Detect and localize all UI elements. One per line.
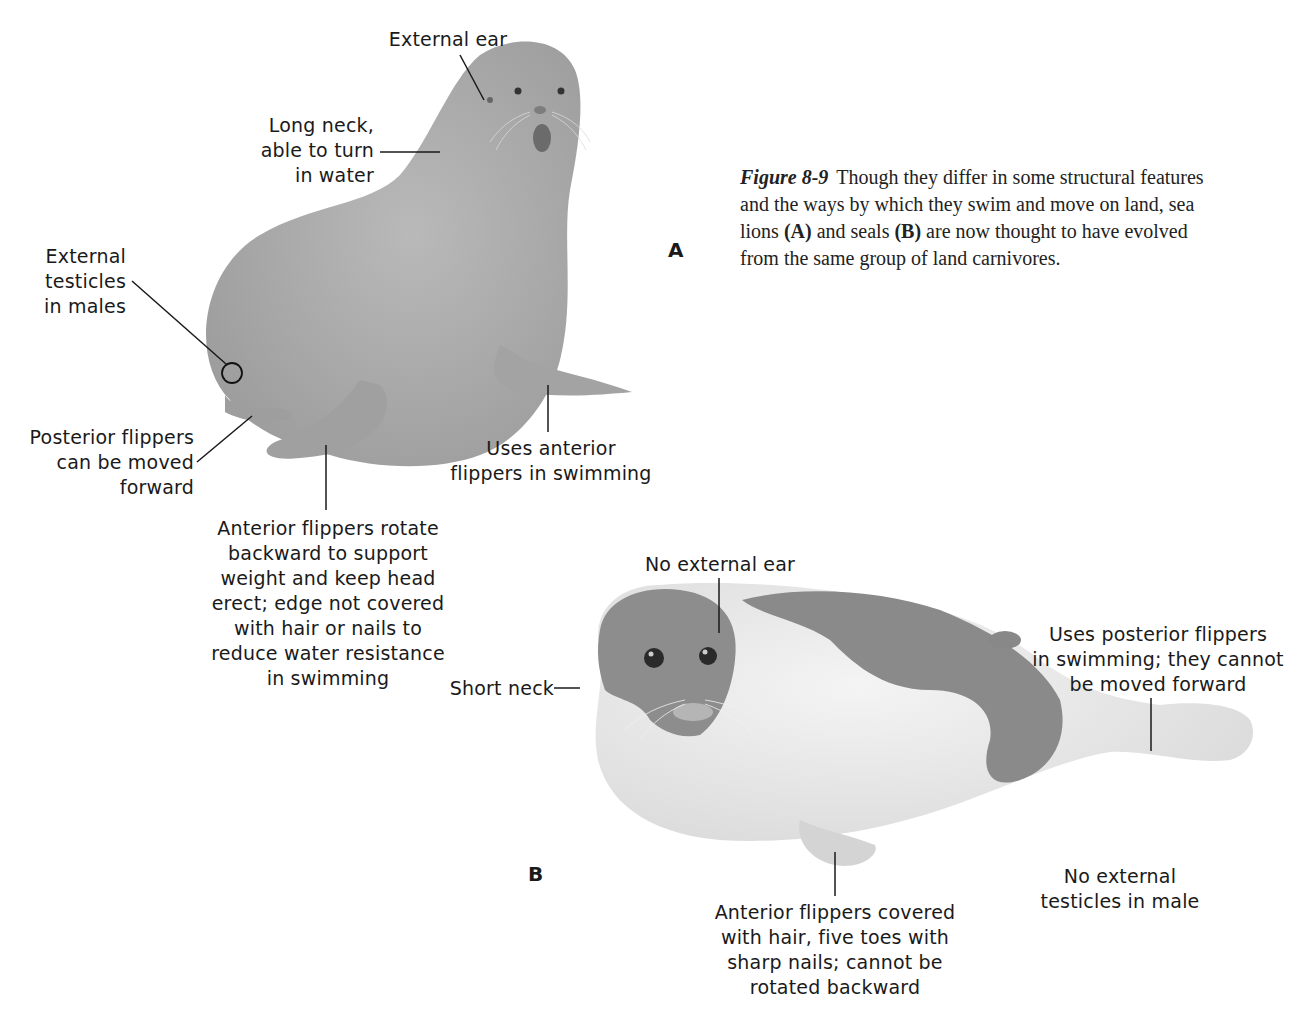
label-short-neck: Short neck (430, 676, 554, 701)
sea-lion-illustration (206, 41, 632, 466)
label-line: be moved forward (1022, 672, 1294, 697)
label-line: No external (1020, 864, 1220, 889)
label-line: testicles in male (1020, 889, 1220, 914)
label-line: erect; edge not covered (196, 591, 460, 616)
label-uses-posterior-flippers: Uses posterior flippers in swimming; the… (1022, 622, 1294, 697)
label-line: in water (210, 163, 374, 188)
label-no-external-testicles: No external testicles in male (1020, 864, 1220, 914)
label-external-testicles: External testicles in males (18, 244, 126, 319)
label-anterior-flippers-hair: Anterior flippers covered with hair, fiv… (700, 900, 970, 1000)
label-line: reduce water resistance (196, 641, 460, 666)
label-line: in swimming; they cannot (1022, 647, 1294, 672)
panel-letter-b: B (528, 862, 543, 886)
label-line: Posterior flippers (10, 425, 194, 450)
panel-letter-a: A (668, 238, 683, 262)
label-line: flippers in swimming (436, 461, 666, 486)
label-line: Anterior flippers covered (700, 900, 970, 925)
label-line: No external ear (620, 552, 820, 577)
label-uses-anterior-flippers: Uses anterior flippers in swimming (436, 436, 666, 486)
label-line: External ear (378, 27, 518, 52)
label-line: can be moved (10, 450, 194, 475)
label-line: rotated backward (700, 975, 970, 1000)
caption-ref-b: (B) (894, 220, 921, 242)
label-line: forward (10, 475, 194, 500)
label-line: Uses posterior flippers (1022, 622, 1294, 647)
label-line: weight and keep head (196, 566, 460, 591)
label-line: with hair, five toes with (700, 925, 970, 950)
label-line: backward to support (196, 541, 460, 566)
label-line: Long neck, (210, 113, 374, 138)
label-line: testicles (18, 269, 126, 294)
label-line: in swimming (196, 666, 460, 691)
figure-number: Figure 8-9 (740, 166, 828, 188)
label-line: Uses anterior (436, 436, 666, 461)
label-posterior-flippers: Posterior flippers can be moved forward (10, 425, 194, 500)
label-line: Short neck (430, 676, 554, 701)
label-line: able to turn (210, 138, 374, 163)
caption-ref-a: (A) (784, 220, 812, 242)
label-line: External (18, 244, 126, 269)
label-external-ear: External ear (378, 27, 518, 52)
label-line: sharp nails; cannot be (700, 950, 970, 975)
label-line: Anterior flippers rotate (196, 516, 460, 541)
label-anterior-flippers-rotate: Anterior flippers rotate backward to sup… (196, 516, 460, 691)
caption-text-2: and seals (812, 220, 895, 242)
label-line: in males (18, 294, 126, 319)
figure-caption: Figure 8-9Though they differ in some str… (740, 164, 1210, 272)
label-long-neck: Long neck, able to turn in water (210, 113, 374, 188)
label-no-external-ear: No external ear (620, 552, 820, 577)
label-line: with hair or nails to (196, 616, 460, 641)
